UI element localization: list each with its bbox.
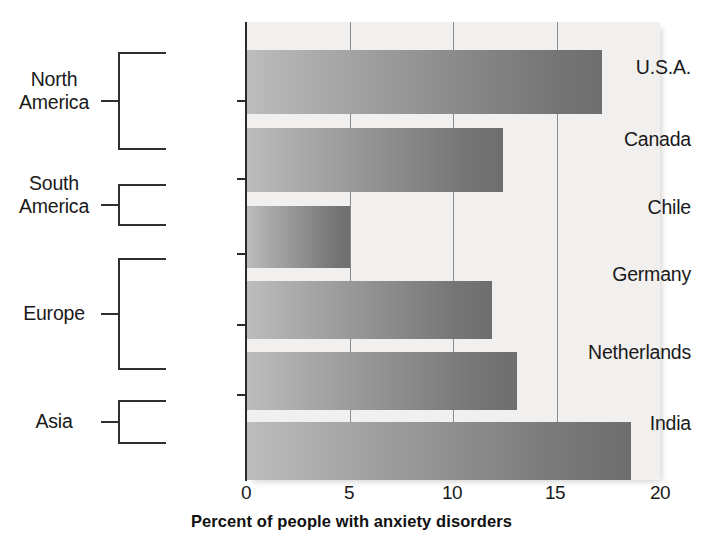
bracket-south-america-arm-top: [118, 184, 166, 186]
y-tick-1: [237, 178, 247, 180]
x-tick-label-20: 20: [638, 482, 682, 504]
region-label-south-america-line2: America: [8, 195, 100, 218]
bracket-south-america-stub: [101, 204, 119, 206]
region-label-north-america-line2: America: [8, 91, 100, 114]
bracket-north-america-arm-top: [118, 52, 166, 54]
bracket-europe-arm-bottom: [118, 368, 166, 370]
region-label-south-america-line1: South: [8, 172, 100, 195]
country-label-india: India: [475, 412, 703, 435]
region-label-europe-line1: Europe: [8, 302, 100, 325]
region-label-north-america-line1: North: [8, 68, 100, 91]
bracket-europe-stub: [101, 313, 119, 315]
country-label-netherlands: Netherlands: [475, 341, 703, 364]
region-label-south-america: South America: [8, 172, 100, 218]
y-tick-4: [237, 394, 247, 396]
bar-chile: [246, 206, 350, 268]
x-tick-label-5: 5: [327, 482, 371, 504]
bracket-europe-arm-top: [118, 258, 166, 260]
y-tick-0: [237, 100, 247, 102]
x-axis-title: Percent of people with anxiety disorders: [0, 512, 703, 531]
bracket-asia-stub: [101, 421, 119, 423]
bar-germany: [246, 281, 492, 339]
bar-canada: [246, 128, 503, 192]
y-axis-line: [245, 22, 247, 481]
country-label-usa: U.S.A.: [475, 56, 703, 79]
country-label-germany: Germany: [475, 263, 703, 286]
bracket-asia-arm-bottom: [118, 442, 166, 444]
region-label-asia-line1: Asia: [8, 410, 100, 433]
bracket-north-america-stub: [101, 100, 119, 102]
y-tick-2: [237, 253, 247, 255]
bracket-asia-arm-top: [118, 400, 166, 402]
x-tick-label-0: 0: [224, 482, 268, 504]
bracket-north-america-arm-bottom: [118, 148, 166, 150]
anxiety-disorders-bar-chart: 0 5 10 15 20 Percent of people with anxi…: [0, 0, 703, 543]
region-label-europe: Europe: [8, 302, 100, 325]
region-label-asia: Asia: [8, 410, 100, 433]
region-label-north-america: North America: [8, 68, 100, 114]
x-tick-label-15: 15: [533, 482, 577, 504]
y-tick-3: [237, 324, 247, 326]
bracket-south-america-arm-bottom: [118, 224, 166, 226]
x-tick-label-10: 10: [430, 482, 474, 504]
country-label-chile: Chile: [475, 196, 703, 219]
country-label-canada: Canada: [475, 128, 703, 151]
